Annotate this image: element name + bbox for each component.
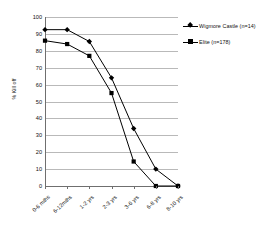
x-axis-tick-mark xyxy=(112,186,113,189)
data-point-square-marker xyxy=(87,54,91,58)
data-point-square-marker xyxy=(43,39,47,43)
x-axis-tick-mark xyxy=(67,186,68,189)
data-point-square-marker xyxy=(109,91,113,95)
data-point-square-marker xyxy=(65,42,69,46)
x-axis-tick-mark xyxy=(156,186,157,189)
x-axis-tick-mark xyxy=(89,186,90,189)
legend-label-wigmore-castle: Wigmore Castle (n=14) xyxy=(198,23,256,29)
data-point-diamond-marker xyxy=(42,27,47,32)
data-point-diamond-marker xyxy=(109,75,114,80)
series-line-wigmore-castle xyxy=(45,30,178,186)
legend-label-elite: Elite (n=178) xyxy=(198,39,230,45)
x-axis-tick-mark xyxy=(178,186,179,189)
x-axis-tick-mark xyxy=(45,186,46,189)
chart-container: % Kill off 0102030405060708090100 0-6 mt… xyxy=(0,0,274,234)
data-point-square-marker xyxy=(132,159,136,163)
data-point-diamond-marker xyxy=(87,39,92,44)
data-point-diamond-marker xyxy=(131,126,136,131)
legend-marker-diamond-icon xyxy=(183,22,198,31)
x-axis-tick-mark xyxy=(134,186,135,189)
legend-entry-wigmore-castle: Wigmore Castle (n=14) xyxy=(183,18,273,34)
series-line-elite xyxy=(45,41,178,186)
data-point-diamond-marker xyxy=(64,27,69,32)
chart-legend: Wigmore Castle (n=14) Elite (n=178) xyxy=(183,18,273,50)
legend-entry-elite: Elite (n=178) xyxy=(183,34,273,50)
legend-marker-square-icon xyxy=(183,38,198,47)
